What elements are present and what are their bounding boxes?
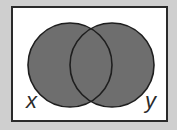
set-y-label: y	[143, 88, 158, 113]
set-x-label: x	[25, 88, 38, 113]
venn-diagram: x y	[0, 0, 177, 130]
